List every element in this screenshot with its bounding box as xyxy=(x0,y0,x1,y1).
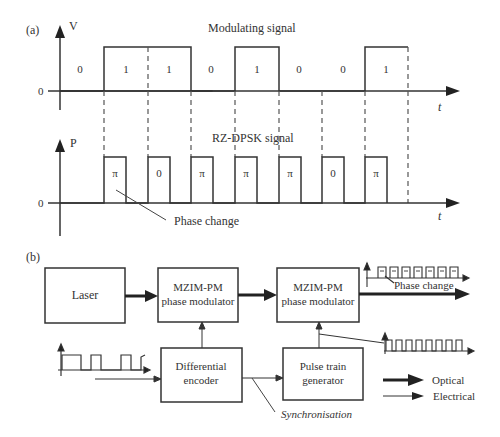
phase-label: π xyxy=(199,167,205,179)
t-axis-arrow-icon xyxy=(446,198,460,208)
input-data-waveform-icon xyxy=(58,344,150,376)
output-phase-change-annotation: Phase change xyxy=(394,279,454,291)
optical-arrow-icon xyxy=(145,290,158,302)
p-axis-label: P xyxy=(70,136,77,150)
mzim-pm-2-label: MZIM-PM xyxy=(293,281,343,293)
legend-optical-arrow-icon xyxy=(408,374,424,386)
panel-b-label: (b) xyxy=(26,250,40,264)
modulating-waveform xyxy=(60,47,408,91)
v-axis-arrow-icon xyxy=(55,25,65,38)
p-axis-arrow-icon xyxy=(55,139,65,152)
panel-a-label: (a) xyxy=(26,23,39,37)
laser-label: Laser xyxy=(72,288,99,302)
zero-label-top: 0 xyxy=(38,85,44,97)
phase-change-pointer xyxy=(116,190,166,220)
bit-label: 1 xyxy=(123,63,129,75)
bit-boundary-guides xyxy=(104,91,408,203)
bit-label: 1 xyxy=(383,63,389,75)
pulse-train-waveform-icon xyxy=(382,333,474,354)
optical-arrow-icon xyxy=(455,288,470,300)
phase-label: 0 xyxy=(330,167,336,179)
bit-label: 0 xyxy=(208,63,214,75)
phase-label: π xyxy=(287,167,293,179)
optical-arrow-icon xyxy=(264,289,277,301)
legend-optical-label: Optical xyxy=(432,374,464,386)
differential-encoder-sublabel: encoder xyxy=(184,374,219,386)
phase-label: π xyxy=(243,167,249,179)
modulating-signal-plot: V 0 t Modulating signal 0 1 1 0 1 0 0 1 xyxy=(38,19,460,114)
pulse-train-generator-sublabel: generator xyxy=(302,374,344,386)
mzim-pm-1-label: MZIM-PM xyxy=(173,281,223,293)
t-axis-label: t xyxy=(438,100,442,114)
phase-label: π xyxy=(373,167,379,179)
mzim-pm-2-sublabel: phase modulator xyxy=(281,295,354,307)
phase-change-annotation: Phase change xyxy=(174,214,239,228)
pulse-train-generator-label: Pulse train xyxy=(300,360,347,372)
phase-label: π xyxy=(112,167,118,179)
bit-label: 1 xyxy=(254,63,260,75)
differential-encoder-label: Differential xyxy=(175,360,226,372)
bit-label: 1 xyxy=(166,63,172,75)
synchronisation-label: Synchronisation xyxy=(281,408,353,420)
t-axis-arrow-icon xyxy=(446,86,460,96)
bit-label: 0 xyxy=(340,63,346,75)
synchronisation-pointer xyxy=(252,378,275,412)
phase-label: 0 xyxy=(156,167,162,179)
mzim-pm-1-sublabel: phase modulator xyxy=(161,295,234,307)
bit-label: 0 xyxy=(296,63,302,75)
v-axis-label: V xyxy=(69,19,78,33)
legend-electrical-arrow-icon xyxy=(412,392,424,400)
bit-label: 0 xyxy=(77,63,83,75)
rz-dpsk-plot: P 0 t RZ-DPSK signal π 0 π π π 0 π Phase… xyxy=(38,131,460,236)
modulating-signal-title: Modulating signal xyxy=(208,21,296,35)
t-axis-label: t xyxy=(438,209,442,223)
legend: Optical Electrical xyxy=(383,374,475,402)
rz-dpsk-title: RZ-DPSK signal xyxy=(212,131,294,145)
legend-electrical-label: Electrical xyxy=(433,390,475,402)
zero-label-bottom: 0 xyxy=(38,197,44,209)
rz-dpsk-waveform xyxy=(60,157,387,203)
